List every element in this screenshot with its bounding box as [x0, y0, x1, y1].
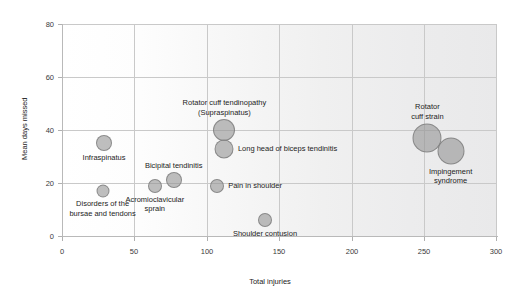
x-tick-mark-250: [424, 237, 425, 241]
point-label-shoulder-contusion: Shoulder contusion: [233, 229, 297, 239]
x-tick-mark-200: [352, 237, 353, 241]
y-axis-title: Mean days missed: [20, 97, 29, 160]
point-label-infraspinatus: Infraspinatus: [83, 153, 126, 163]
y-tick-label-20: 20: [30, 179, 54, 188]
x-tick-label-100: 100: [201, 247, 214, 256]
x-tick-mark-0: [62, 237, 63, 241]
y-tick-mark-60: [58, 77, 62, 78]
y-axis-line: [62, 24, 63, 237]
bubble-bicipital-tendinitis[interactable]: [166, 172, 182, 188]
x-tick-label-200: 200: [346, 247, 359, 256]
bubble-shoulder-contusion[interactable]: [258, 213, 272, 227]
point-label-acromioclavicular-sprain: Acromioclavicular sprain: [125, 195, 184, 214]
bubble-impingement-syndrome[interactable]: [437, 138, 464, 165]
y-tick-mark-40: [58, 130, 62, 131]
bubble-long-head-of-biceps-tendinitis[interactable]: [215, 139, 234, 158]
gridline-y-60: [62, 77, 497, 78]
point-label-rotator-cuff-strain: Rotator cuff strain: [411, 102, 443, 121]
y-tick-mark-80: [58, 24, 62, 25]
x-tick-mark-100: [207, 237, 208, 241]
point-label-impingement-syndrome: Impingement syndrome: [429, 167, 472, 186]
point-label-rotator-cuff-tendinopathy-supraspinatus: Rotator cuff tendinopathy (Supraspinatus…: [183, 98, 267, 117]
y-tick-label-0: 0: [30, 232, 54, 241]
y-tick-label-60: 60: [30, 73, 54, 82]
y-tick-label-40: 40: [30, 126, 54, 135]
bubble-pain-in-shoulder[interactable]: [210, 179, 224, 193]
bubble-infraspinatus[interactable]: [96, 135, 112, 151]
point-label-long-head-of-biceps-tendinitis: Long head of biceps tendinitis: [238, 144, 337, 154]
point-label-pain-in-shoulder: Pain in shoulder: [228, 181, 282, 191]
bubble-disorders-of-the-bursae-and-tendons[interactable]: [96, 184, 109, 197]
x-tick-label-0: 0: [60, 247, 64, 256]
gridline-y-80: [62, 24, 497, 25]
y-tick-mark-20: [58, 183, 62, 184]
bubble-chart: 80 60 40 20 0 0 50 100 150 200 250 300 T…: [0, 0, 529, 306]
x-axis-title: Total injuries: [249, 277, 291, 286]
bubble-rotator-cuff-tendinopathy-supraspinatus[interactable]: [213, 119, 235, 141]
y-tick-label-80: 80: [30, 20, 54, 29]
point-label-bicipital-tendinitis: Bicipital tendinitis: [145, 161, 203, 171]
x-tick-mark-300: [496, 237, 497, 241]
x-tick-label-50: 50: [130, 247, 138, 256]
x-tick-label-300: 300: [490, 247, 503, 256]
bubble-acromioclavicular-sprain[interactable]: [148, 179, 162, 193]
x-tick-mark-50: [134, 237, 135, 241]
x-tick-label-150: 150: [273, 247, 286, 256]
x-tick-label-250: 250: [418, 247, 431, 256]
